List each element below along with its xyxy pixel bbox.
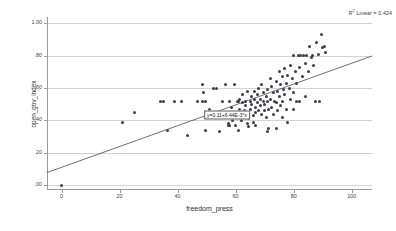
data-point	[250, 103, 253, 106]
data-point	[289, 98, 292, 101]
data-point	[260, 113, 263, 116]
data-point	[265, 116, 268, 119]
data-point	[298, 66, 301, 69]
data-points-layer	[47, 17, 372, 190]
data-point	[275, 101, 278, 104]
x-tick-label: 0	[60, 194, 63, 199]
y-axis-title: open_gov_index	[31, 80, 37, 127]
data-point	[323, 45, 326, 48]
x-axis-title: freedom_press	[47, 205, 372, 212]
data-point	[254, 124, 257, 127]
x-tick-label: 80	[291, 194, 297, 199]
data-point	[318, 100, 321, 103]
data-point	[121, 121, 124, 124]
data-point	[283, 67, 286, 70]
data-point	[266, 130, 269, 133]
data-point	[259, 104, 262, 107]
data-point	[317, 53, 320, 56]
data-point	[286, 74, 289, 77]
x-tick-label: 100	[347, 194, 356, 199]
fit-equation-label: y=0.11+6.44E-3*x	[204, 110, 250, 119]
data-point	[263, 103, 266, 106]
data-point	[320, 33, 323, 36]
data-point	[260, 83, 263, 86]
data-point	[324, 51, 327, 54]
data-point	[295, 82, 298, 85]
data-point	[289, 64, 292, 67]
data-point	[314, 100, 317, 103]
data-point	[272, 113, 275, 116]
data-point	[308, 45, 311, 48]
data-point	[263, 109, 266, 112]
data-point	[295, 100, 298, 103]
data-point	[315, 41, 318, 44]
data-point	[312, 64, 315, 67]
data-point	[276, 90, 279, 93]
data-point	[240, 119, 243, 122]
y-tick-label: 1.00	[32, 21, 43, 26]
data-point	[257, 109, 260, 112]
x-tick-label: 20	[117, 194, 123, 199]
data-point	[275, 80, 278, 83]
data-point	[241, 93, 244, 96]
data-point	[270, 85, 273, 88]
data-point	[234, 124, 237, 127]
data-point	[285, 82, 288, 85]
y-tick-label: .80	[35, 53, 43, 58]
data-point	[298, 100, 301, 103]
r-squared-annotation: R2 Linear = 0.424	[349, 11, 392, 16]
data-point	[292, 91, 295, 94]
data-point	[292, 54, 295, 57]
data-point	[281, 75, 284, 78]
data-point	[269, 77, 272, 80]
data-point	[307, 70, 310, 73]
data-point	[218, 130, 221, 133]
data-point	[279, 104, 282, 107]
data-point	[250, 95, 253, 98]
data-point	[305, 54, 308, 57]
data-point	[252, 114, 255, 117]
data-point	[276, 109, 279, 112]
data-point	[262, 91, 265, 94]
data-point	[275, 127, 278, 130]
data-point	[166, 129, 169, 132]
data-point	[224, 83, 227, 86]
data-point	[204, 100, 207, 103]
y-tick-label: .00	[35, 182, 43, 187]
data-point	[162, 100, 165, 103]
x-tick-label: 40	[175, 194, 181, 199]
data-point	[301, 75, 304, 78]
data-point	[266, 88, 269, 91]
data-point	[215, 87, 218, 90]
data-point	[221, 100, 224, 103]
data-point	[237, 129, 240, 132]
data-point	[256, 93, 259, 96]
data-point	[278, 70, 281, 73]
data-point	[60, 184, 63, 187]
data-point	[304, 95, 307, 98]
x-tick-label: 60	[233, 194, 239, 199]
data-point	[233, 83, 236, 86]
r-squared-value-text: Linear = 0.424	[355, 10, 392, 16]
data-point	[304, 62, 307, 65]
data-point	[286, 121, 289, 124]
data-point	[285, 108, 288, 111]
data-point	[230, 106, 233, 109]
data-point	[196, 100, 199, 103]
data-point	[288, 87, 291, 90]
data-point	[180, 100, 183, 103]
data-point	[272, 91, 275, 94]
scatterplot-chart: R2 Linear = 0.424 .00.20.40.60.801.00 02…	[0, 0, 396, 231]
data-point	[269, 98, 272, 101]
data-point	[270, 106, 273, 109]
data-point	[247, 125, 250, 128]
data-point	[231, 119, 234, 122]
plot-area: .00.20.40.60.801.00 020406080100 y=0.11+…	[47, 17, 372, 190]
data-point	[281, 100, 284, 103]
data-point	[246, 90, 249, 93]
data-point	[283, 93, 286, 96]
data-point	[311, 54, 314, 57]
data-point	[279, 83, 282, 86]
data-point	[173, 100, 176, 103]
data-point	[202, 91, 205, 94]
